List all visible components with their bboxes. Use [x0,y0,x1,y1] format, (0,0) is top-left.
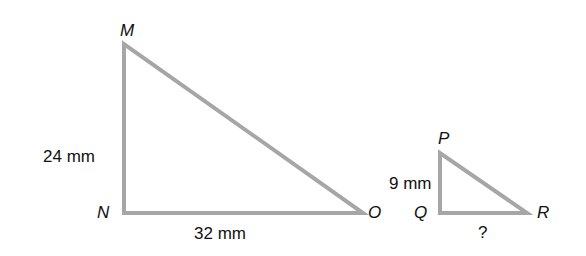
side-label-qr: ? [478,224,487,241]
vertex-label-n: N [97,204,109,221]
vertex-label-q: Q [414,204,427,221]
similar-triangles-diagram: M N O 24 mm 32 mm P Q R 9 mm ? [0,0,586,256]
side-label-pq: 9 mm [389,175,432,192]
triangles-canvas [0,0,586,256]
vertex-label-m: M [120,22,134,39]
side-label-no: 32 mm [194,225,246,242]
vertex-label-p: P [438,130,449,147]
side-label-mn: 24 mm [43,148,95,165]
triangle-pqr [440,153,527,213]
vertex-label-r: R [537,204,549,221]
triangle-mno [124,44,363,213]
vertex-label-o: O [368,204,381,221]
